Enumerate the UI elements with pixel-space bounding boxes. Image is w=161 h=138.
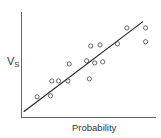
x-axis-label: Probability — [72, 122, 116, 133]
scatter-chart — [0, 0, 161, 138]
data-point — [48, 94, 52, 98]
data-point — [56, 79, 60, 83]
data-point — [93, 61, 97, 65]
data-point — [144, 40, 148, 44]
data-point — [67, 62, 71, 66]
data-point — [87, 77, 91, 81]
data-points — [35, 26, 148, 99]
trend-line — [24, 22, 143, 112]
data-point — [89, 44, 93, 48]
data-point — [35, 95, 39, 99]
data-point — [50, 79, 54, 83]
data-point — [115, 42, 119, 46]
y-axis-label: VS — [7, 55, 20, 69]
data-point — [101, 60, 105, 64]
data-point — [125, 26, 129, 30]
data-point — [144, 26, 148, 30]
data-point — [66, 79, 70, 83]
data-point — [85, 59, 89, 63]
data-point — [98, 43, 102, 47]
